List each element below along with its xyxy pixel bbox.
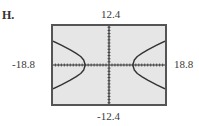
hyperbola-plot	[53, 26, 165, 104]
ymin-label: -12.4	[97, 110, 120, 122]
xmin-label: -18.8	[12, 58, 35, 70]
graph-screen	[51, 24, 167, 106]
ymax-label: 12.4	[101, 8, 120, 20]
panel-label: H.	[2, 8, 14, 23]
xmax-label: 18.8	[174, 58, 193, 70]
